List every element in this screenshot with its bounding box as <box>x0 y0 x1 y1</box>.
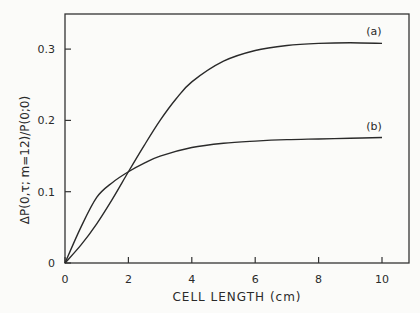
y-tick-label: 0.2 <box>38 114 56 127</box>
curve-b <box>65 138 382 263</box>
x-tick-label: 10 <box>375 273 389 286</box>
x-tick-label: 6 <box>252 273 259 286</box>
y-tick-label: 0 <box>48 257 55 270</box>
x-axis-ticks: 0246810 <box>62 257 390 286</box>
y-axis-label: ΔP(0,τ; m=12)/P(0;0) <box>18 96 32 224</box>
x-tick-label: 4 <box>188 273 195 286</box>
x-tick-label: 8 <box>315 273 322 286</box>
x-tick-label: 0 <box>62 273 69 286</box>
y-axis-ticks: 00.10.20.3 <box>38 43 72 270</box>
curve-label-b: (b) <box>366 120 382 133</box>
x-axis-label: CELL LENGTH (cm) <box>172 290 301 304</box>
curve-label-a: (a) <box>366 25 381 38</box>
x-tick-label: 2 <box>125 273 132 286</box>
line-chart: 0246810 00.10.20.3 (a)(b) CELL LENGTH (c… <box>0 0 420 313</box>
curve-a <box>65 43 382 263</box>
y-tick-label: 0.3 <box>38 43 56 56</box>
y-tick-label: 0.1 <box>38 186 56 199</box>
curves: (a)(b) <box>65 25 382 263</box>
